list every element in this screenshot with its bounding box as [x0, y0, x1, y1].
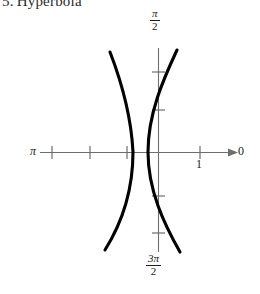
hyperbola-left-branch	[105, 52, 133, 250]
fraction-denominator: 2	[146, 266, 161, 278]
hyperbola-right-branch	[148, 50, 180, 252]
hyperbola-svg	[0, 0, 260, 294]
horizontal-axis	[40, 149, 238, 157]
axis-label-three-pi-over-two: 3π 2	[146, 253, 161, 277]
axis-label-pi-over-two: π 2	[150, 8, 160, 32]
axis-label-zero: 0	[238, 145, 244, 157]
fraction-numerator: 3π	[146, 253, 161, 266]
horizontal-axis-arrowhead	[228, 149, 238, 157]
polar-hyperbola-figure: π 0 1 π 2 3π 2	[0, 0, 260, 294]
figure-page: 5.Hyperbola	[0, 0, 260, 294]
fraction-numerator: π	[150, 8, 160, 21]
fraction-denominator: 2	[150, 21, 160, 33]
tick-label-one: 1	[196, 158, 202, 170]
fraction-pi-over-two: π 2	[150, 8, 160, 32]
fraction-three-pi-over-two: 3π 2	[146, 253, 161, 277]
axis-label-pi: π	[30, 145, 36, 157]
